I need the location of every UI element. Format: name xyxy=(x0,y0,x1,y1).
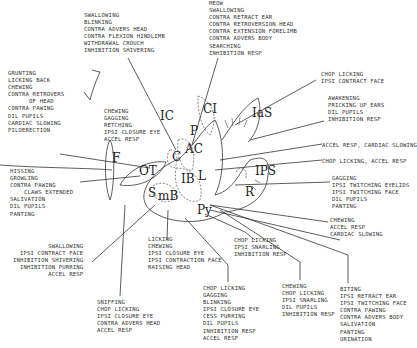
leader-line xyxy=(220,144,322,160)
region-label-ias: IaS xyxy=(252,106,272,120)
annotation-top-center-right: MEOWSWALLOWINGCONTRA RETRACT EARCONTRA R… xyxy=(209,0,297,57)
annotation-line: CONTRA RETRACT EAR xyxy=(209,14,297,21)
annotation-line: IPSI CLOSURE EYE xyxy=(148,250,222,257)
annotation-line: SEARCHING xyxy=(209,43,297,50)
annotation-line: INHIBITION RESP xyxy=(209,50,297,57)
annotation-line: PRICKING UP EARS xyxy=(328,102,384,109)
annotation-line: GAGGING xyxy=(332,175,409,182)
annotation-line: CHOP LICKING xyxy=(234,237,287,244)
annotation-line: PILOERECTION xyxy=(8,127,64,134)
check-mark xyxy=(84,70,100,100)
annotation-line: CHOP LICKING, ACCEL RESP xyxy=(322,158,406,165)
annotation-line: CHOP LICKING xyxy=(321,71,384,78)
region-label-ib: IB xyxy=(181,172,195,186)
annotation-line: BLINKING xyxy=(84,19,165,26)
annotation-bottom-chewing-snarling: CHEWINGCHOP LICKINGIPSI SNARLINGDIL PUPI… xyxy=(282,283,335,318)
annotation-line: CARDIAC SLOWING xyxy=(330,231,383,238)
region-label-l: L xyxy=(198,169,206,183)
annotation-line: LICKING BACK xyxy=(8,77,64,84)
annotation-line: SALIVATION xyxy=(10,196,73,203)
annotation-bottom-biting: BITINGIPSI RETRACT EARIPSI TWITCHING FAC… xyxy=(340,286,407,343)
annotation-line: SWALLOWING xyxy=(13,243,83,250)
annotation-line: CONTRA ADVERS HEAD xyxy=(84,26,165,33)
region-label-ips: IPS xyxy=(255,164,276,178)
annotation-bottom-chop-snarling: CHOP LICKINGIPSI SNARLINGINHIBITION RESP xyxy=(234,237,287,258)
annotation-bottom-chop-gagging: CHOP LICKINGGAGGINGBLINKINGIPSI CLOSURE … xyxy=(203,285,259,342)
annotation-line: DIL PUPILS xyxy=(8,113,64,120)
annotation-line: BITING xyxy=(340,286,407,293)
annotation-right-chop-face: CHOP LICKINGIPSI CONTRACT FACE xyxy=(321,71,384,85)
annotation-line: CHEWING xyxy=(330,217,383,224)
annotation-line: INHIBITION RESP xyxy=(203,328,259,335)
annotation-line: DIL PUPILS xyxy=(282,304,335,311)
annotation-line: BLINKING xyxy=(203,299,259,306)
annotation-line: CLAWS EXTENDED xyxy=(10,189,73,196)
region-label-p: P xyxy=(190,124,198,138)
annotation-line: INHIBITION RESP xyxy=(328,116,384,123)
annotation-line: ACCEL RESP xyxy=(13,271,83,278)
annotation-line: PANTING xyxy=(332,203,409,210)
region-label-c: C xyxy=(172,150,181,164)
annotation-line: ACCEL RESP xyxy=(203,335,259,342)
annotation-line: INHIBITION SHIVERING xyxy=(13,257,83,264)
annotation-line: URINATION xyxy=(340,336,407,343)
annotation-line: INHIBITION RESP xyxy=(282,311,335,318)
annotation-line: PANTING xyxy=(10,211,73,218)
annotation-line: SALIVATION xyxy=(340,321,407,328)
annotation-line: IPSI TWITCHING FACE xyxy=(332,189,409,196)
hatch-mark xyxy=(244,120,247,127)
region-outline-ips xyxy=(236,168,246,178)
annotation-line: CHEWING xyxy=(104,108,160,115)
leader-line xyxy=(60,154,150,168)
annotation-line: RETCHING xyxy=(104,122,160,129)
annotation-line: CHOP LICKING xyxy=(203,285,259,292)
region-label-ci: CI xyxy=(203,102,217,116)
annotation-line: ACCEL RESP xyxy=(97,327,160,334)
annotation-line: SNIFFING xyxy=(97,299,160,306)
annotation-line: INHIBITION RESP xyxy=(234,251,287,258)
leader-line xyxy=(250,121,324,140)
annotation-line: SWALLOWING xyxy=(209,7,297,14)
annotation-line: SWALLOWING xyxy=(84,12,165,19)
annotation-line: CONTRA ADVERS HEAD xyxy=(97,320,160,327)
annotation-line: AWAKENING xyxy=(328,95,384,102)
annotation-line: CONTRA PAWING xyxy=(10,182,73,189)
annotation-line: IPSI SNARLING xyxy=(282,297,335,304)
annotation-line: CONTRA FLEXION HINDLIMB xyxy=(84,33,165,40)
annotation-line: CHEWING xyxy=(148,243,222,250)
annotation-line: ACCEL RESP xyxy=(104,136,160,143)
annotation-line: HISSING xyxy=(10,168,73,175)
annotation-line: RAISING HEAD xyxy=(148,264,222,271)
annotation-line: IPSI TWITCHING EYELIDS xyxy=(332,182,409,189)
annotation-line: ACCEL RESP xyxy=(330,224,383,231)
annotation-line: CONTRA PAWING xyxy=(340,307,407,314)
annotation-line: DIL PUPILS xyxy=(10,203,73,210)
region-label-f: F xyxy=(112,151,120,165)
leader-line xyxy=(235,80,316,125)
annotation-line: ACCEL RESP, CARDIAC SLOWING xyxy=(322,142,417,149)
hatch-mark xyxy=(255,180,260,183)
annotation-line: CONTRA ADVERS BODY xyxy=(209,35,297,42)
annotation-line: CONTRA RETROVERS xyxy=(8,91,64,98)
region-label-py: Py xyxy=(197,203,212,217)
annotation-right-gagging: GAGGINGIPSI TWITCHING EYELIDSIPSI TWITCH… xyxy=(332,175,409,210)
annotation-line: IPSI SNARLING xyxy=(234,244,287,251)
annotation-line: IPSI CLOSURE EYE xyxy=(97,313,160,320)
annotation-center-chewing: CHEWINGGAGGINGRETCHINGIPSI CLOSURE EYEAC… xyxy=(104,108,160,143)
annotation-line: CONTRA EXTENSION FORELIMB xyxy=(209,28,297,35)
annotation-line: GRUNTING xyxy=(8,70,64,77)
region-label-ic: IC xyxy=(160,109,174,123)
annotation-line: CHOP LICKING xyxy=(97,306,160,313)
annotation-line: CHEWING xyxy=(282,283,335,290)
annotation-bottom-licking: LICKINGCHEWINGIPSI CLOSURE EYEIPSI CONTR… xyxy=(148,236,222,271)
annotation-line: IPSI CLOSURE EYE xyxy=(104,129,160,136)
annotation-line: IPSI CONTRACT FACE xyxy=(13,250,83,257)
annotation-line: GROWLING xyxy=(10,175,73,182)
annotation-line: CHOP LICKING xyxy=(282,290,335,297)
leader-line xyxy=(210,205,328,222)
annotation-line: WITHDRAWAL CROUCH xyxy=(84,40,165,47)
annotation-left-hissing: HISSINGGROWLINGCONTRA PAWING CLAWS EXTEN… xyxy=(10,168,73,218)
annotation-line: CESS PURRING xyxy=(203,313,259,320)
region-label-mb: mB xyxy=(158,189,178,203)
annotation-line: IPSI TWITCHING FACE xyxy=(340,300,407,307)
